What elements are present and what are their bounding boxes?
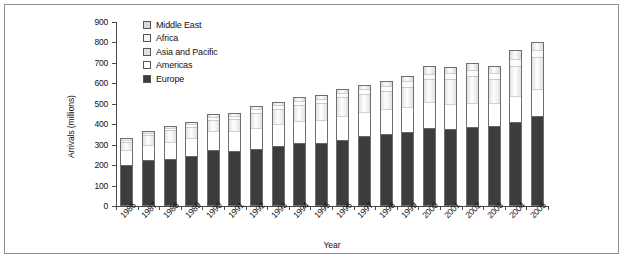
segment-divider <box>121 165 132 166</box>
y-tick-label: 200 <box>78 161 108 169</box>
bar <box>358 85 371 206</box>
bar-segment <box>532 89 543 116</box>
bar-segment <box>121 142 132 150</box>
bar-segment <box>359 112 370 136</box>
segment-divider <box>316 99 327 100</box>
bar-segment <box>467 127 478 206</box>
bar-segment <box>251 128 262 149</box>
y-tick-label: 900 <box>78 18 108 26</box>
legend-item: Asia and Pacific <box>143 45 218 59</box>
segment-divider <box>208 150 219 151</box>
bar-segment <box>510 66 521 96</box>
bar <box>315 95 328 206</box>
bar <box>509 50 522 206</box>
bar-segment <box>186 156 197 206</box>
y-axis-line <box>116 22 117 207</box>
y-tick <box>112 83 116 84</box>
bar <box>272 102 285 206</box>
bar-segment <box>359 136 370 206</box>
segment-divider <box>143 145 154 146</box>
y-tick <box>112 124 116 125</box>
segment-divider <box>424 102 435 103</box>
segment-divider <box>510 96 521 97</box>
segment-divider <box>294 143 305 144</box>
segment-divider <box>143 133 154 134</box>
bar-segment <box>402 132 413 206</box>
bar-segment <box>165 142 176 159</box>
y-tick <box>112 186 116 187</box>
legend-label: Asia and Pacific <box>156 47 218 57</box>
segment-divider <box>489 73 500 74</box>
legend-label: Africa <box>156 33 178 43</box>
bar-segment <box>489 79 500 103</box>
bar-segment <box>337 116 348 140</box>
bar-segment <box>489 126 500 206</box>
segment-divider <box>532 89 543 90</box>
bar-segment <box>445 129 456 207</box>
bar <box>207 114 220 206</box>
bar-segment <box>294 105 305 122</box>
segment-divider <box>165 159 176 160</box>
bar-segment <box>229 151 240 206</box>
bar-segment <box>165 159 176 206</box>
segment-divider <box>208 120 219 121</box>
bar-segment <box>424 128 435 206</box>
y-tick-label: 100 <box>78 182 108 190</box>
legend-label: Europe <box>156 74 184 84</box>
legend-item: Middle East <box>143 18 218 32</box>
segment-divider <box>424 79 435 80</box>
bar-segment <box>316 120 327 142</box>
segment-divider <box>532 57 543 58</box>
segment-divider <box>273 124 284 125</box>
segment-divider <box>186 156 197 157</box>
segment-divider <box>208 131 219 132</box>
bar <box>336 89 349 206</box>
segment-divider <box>121 150 132 151</box>
segment-divider <box>165 142 176 143</box>
segment-divider <box>489 126 500 127</box>
bar-segment <box>445 79 456 104</box>
legend-swatch <box>143 61 151 69</box>
segment-divider <box>251 113 262 114</box>
segment-divider <box>359 89 370 90</box>
bar-segment <box>532 43 543 50</box>
bar-segment <box>532 50 543 58</box>
bar-segment <box>402 107 413 132</box>
segment-divider <box>359 112 370 113</box>
bar <box>164 126 177 206</box>
bar-segment <box>337 140 348 206</box>
bar-segment <box>510 96 521 122</box>
stacked-bar-chart: 0100200300400500600700800900 Arrivals (m… <box>0 0 625 261</box>
bar-segment <box>510 51 521 59</box>
segment-divider <box>294 121 305 122</box>
legend-label: Middle East <box>156 20 201 30</box>
segment-divider <box>510 122 521 123</box>
segment-divider <box>143 160 154 161</box>
segment-divider <box>402 132 413 133</box>
segment-divider <box>424 128 435 129</box>
segment-divider <box>186 127 197 128</box>
bar-segment <box>467 103 478 127</box>
bar-segment <box>143 145 154 161</box>
bar <box>488 66 501 206</box>
legend-item: Europe <box>143 72 218 86</box>
y-tick <box>112 145 116 146</box>
bar-segment <box>510 122 521 206</box>
segment-divider <box>337 140 348 141</box>
segment-divider <box>381 134 392 135</box>
y-tick <box>112 165 116 166</box>
y-tick <box>112 22 116 23</box>
segment-divider <box>467 76 478 77</box>
y-tick-label: 500 <box>78 100 108 108</box>
segment-divider <box>510 66 521 67</box>
segment-divider <box>229 116 240 117</box>
y-axis-title: Arrivals (millions) <box>66 95 76 158</box>
segment-divider <box>467 127 478 128</box>
bar-segment <box>532 116 543 206</box>
bar-segment <box>381 134 392 206</box>
segment-divider <box>445 79 456 80</box>
bar <box>250 106 263 206</box>
bar-segment <box>294 143 305 206</box>
y-tick-label: 0 <box>78 202 108 210</box>
bar <box>142 131 155 206</box>
